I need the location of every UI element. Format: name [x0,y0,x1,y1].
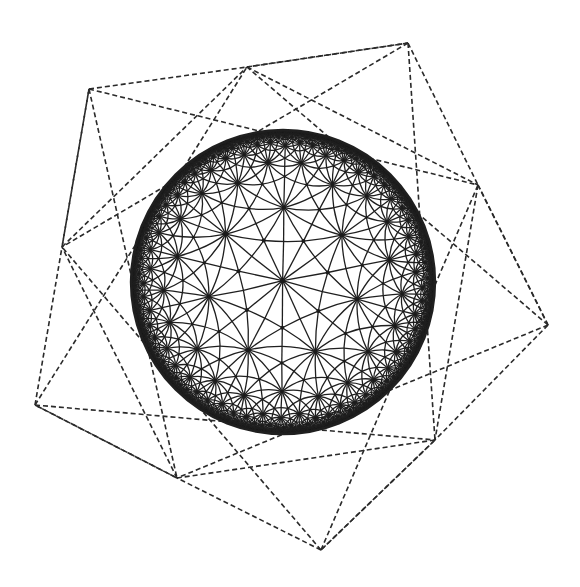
geodesic-edge [281,391,282,407]
geodesic-edge [319,185,332,210]
tiling-vertex [373,239,376,242]
tiling-vertex [156,318,157,319]
geodesic-edge [219,332,220,360]
tiling-vertex [196,348,199,351]
tiling-vertex [409,341,410,342]
geodesic-edge [307,185,333,186]
geodesic-edge [133,268,134,269]
geodesic-edge [419,341,420,342]
tiling-vertex [143,283,144,284]
geodesic-edge [157,201,158,202]
geodesic-edge [216,183,237,184]
geodesic-edge [309,430,310,431]
tiling-vertex [186,364,187,365]
geodesic-edge [433,272,434,273]
tiling-vertex [189,377,190,378]
geodesic-edge [388,177,389,179]
geodesic-edge [282,363,304,380]
tiling-vertex [196,392,197,393]
geodesic-edge [138,246,140,247]
geodesic-edge [374,239,394,240]
tiling-vertex [355,297,359,301]
geodesic-edge [204,155,205,157]
geodesic-edge [252,429,253,430]
geodesic-edge [247,310,249,350]
tiling-vertex [244,154,245,155]
geodesic-edge [401,276,402,294]
tiling-vertex [281,390,284,393]
tiling-vertex [386,221,388,223]
geodesic-edge [259,363,282,379]
geodesic-edge [219,310,247,332]
geodesic-edge [287,432,288,433]
tiling-vertex [224,232,228,236]
geodesic-edge [225,419,227,420]
geodesic-edge [247,142,248,147]
tiling-vertex [303,379,306,382]
tiling-vertex [312,145,313,146]
geodesic-edge [332,185,346,205]
geodesic-edge [245,426,246,427]
tiling-vertex [347,397,348,398]
tiling-vertex [320,410,321,411]
dashed-edge [35,247,62,405]
geodesic-edge [424,240,426,241]
tiling-vertex [285,145,286,146]
geodesic-edge [280,131,281,132]
geodesic-edge [284,208,304,242]
tiling-vertex [221,202,224,205]
geodesic-edge [150,351,151,352]
geodesic-edge [209,271,239,296]
tiling-vertex [375,185,376,186]
geodesic-edge [249,209,264,241]
tiling-vertex [152,240,153,241]
tiling-vertex [152,299,153,300]
geodesic-edge [247,350,248,377]
tiling-vertex [340,405,341,406]
tiling-vertex [235,164,236,165]
geodesic-edge [144,337,145,338]
tiling-vertex [388,259,391,262]
geodesic-edge [347,383,348,398]
geodesic-edge [381,171,383,172]
geodesic-edge [214,151,216,152]
geodesic-edge [299,414,308,415]
tiling-vertex [206,391,207,392]
tiling-vertex [373,379,374,380]
geodesic-edge [170,322,185,332]
tiling-vertex [232,404,233,405]
geodesic-edge [297,430,298,431]
tiling-vertex [274,408,275,409]
tiling-vertex [178,338,180,340]
tiling-vertex [422,287,423,288]
tiling-vertex [255,154,256,155]
tiling-vertex [175,365,176,366]
tiling-vertex [262,239,266,243]
tiling-vertex [246,348,250,352]
geodesic-edge [284,208,319,211]
geodesic-edge [263,430,264,431]
geodesic-edge [153,272,165,280]
tiling-vertex [203,178,204,179]
geodesic-edge [385,294,401,307]
geodesic-edge [318,311,345,333]
geodesic-edge [399,374,400,375]
tiling-vertex [250,166,252,168]
tiling-vertex [382,282,385,285]
tiling-vertex [282,206,286,210]
geodesic-edge [328,273,357,300]
tiling-vertex [245,308,249,312]
tiling-vertex [176,255,179,258]
tiling-vertex [187,190,188,191]
tiling-vertex [175,205,176,206]
geodesic-edge [428,270,431,271]
tiling-vertex [223,169,224,170]
geodesic-edge [362,240,374,265]
tiling-vertex [154,337,155,338]
geodesic-edge [318,378,327,397]
tiling-vertex [381,193,382,194]
tiling-vertex [376,367,377,368]
geodesic-edge [283,242,284,281]
geodesic-edge [298,132,299,133]
tiling-vertex [169,358,170,359]
